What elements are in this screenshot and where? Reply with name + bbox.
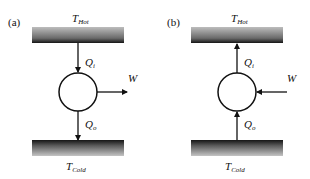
engine-circle	[59, 73, 97, 111]
hot-reservoir	[191, 27, 283, 43]
cold-reservoir-label: TCold	[66, 160, 86, 174]
hot-reservoir-label: THot	[72, 12, 90, 26]
engine-circle	[218, 73, 256, 111]
panel-tag: (b)	[167, 16, 180, 29]
hot-reservoir	[32, 27, 124, 43]
heat-in-label: Qi	[85, 56, 95, 70]
panel-tag: (a)	[8, 16, 21, 29]
heat-engine-diagrams: (a) THot Qi W Qo TCold (b) THot Qi W Qo …	[0, 0, 310, 179]
cold-reservoir	[32, 140, 124, 156]
panel-a: (a) THot Qi W Qo TCold	[8, 12, 138, 174]
panel-b: (b) THot Qi W Qo TCold	[167, 12, 297, 174]
work-label: W	[287, 72, 297, 84]
hot-reservoir-label: THot	[231, 12, 249, 26]
heat-in-label: Qi	[244, 56, 254, 70]
heat-out-label: Qo	[85, 118, 97, 132]
cold-reservoir	[191, 140, 283, 156]
work-label: W	[128, 72, 138, 84]
heat-out-label: Qo	[244, 118, 256, 132]
cold-reservoir-label: TCold	[225, 160, 245, 174]
